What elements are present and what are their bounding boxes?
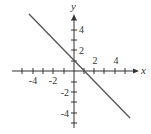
x-tick-label: -2 xyxy=(49,75,57,86)
y-tick-label: 4 xyxy=(79,24,84,35)
y-tick-label: 2 xyxy=(79,45,84,56)
x-tick-label: 2 xyxy=(93,55,98,66)
coordinate-plane: -4 -2 2 4 4 2 -2 -4 x y xyxy=(0,0,151,134)
x-tick-label: -4 xyxy=(29,75,37,86)
y-axis-arrow-icon xyxy=(72,14,77,20)
x-tick-label: 4 xyxy=(114,55,119,66)
x-axis-label: x xyxy=(140,64,146,76)
x-axis-arrow-icon xyxy=(133,69,139,74)
y-tick-label: -2 xyxy=(61,87,69,98)
y-tick-label: -4 xyxy=(61,108,69,119)
y-axis-label: y xyxy=(70,0,76,12)
